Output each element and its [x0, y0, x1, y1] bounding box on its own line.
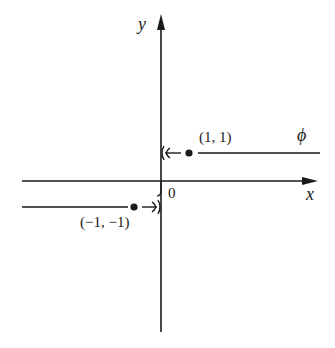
x-axis: [22, 177, 318, 185]
bracket-icon: [162, 146, 164, 160]
point-label-1-1: (1, 1): [199, 129, 232, 146]
phi-label: ϕ: [297, 125, 306, 145]
origin-label: 0: [168, 185, 176, 201]
x-axis-label: x: [305, 184, 314, 204]
origin-tick: [157, 181, 161, 196]
point-neg1-neg1-dot: [130, 203, 137, 210]
y-axis-label: y: [136, 14, 146, 34]
upper-branch: [162, 146, 320, 160]
bracket-icon: [158, 200, 160, 214]
point-label-neg1-neg1: (−1, −1): [80, 214, 129, 231]
y-axis: [157, 14, 165, 332]
y-axis-arrow-icon: [157, 14, 165, 30]
diagram-canvas: y x 0 (1, 1) (−1, −1) ϕ: [0, 0, 335, 348]
point-1-1-dot: [185, 149, 192, 156]
lower-branch: [22, 200, 160, 214]
